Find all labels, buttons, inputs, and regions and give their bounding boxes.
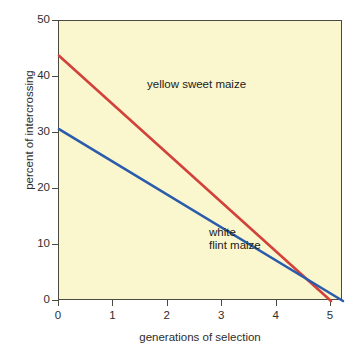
x-tick-label: 3: [206, 310, 236, 322]
y-axis-label: percent of intercrossing: [23, 40, 35, 220]
x-tick-label: 0: [43, 310, 73, 322]
y-tick-label: 0: [10, 294, 50, 306]
x-axis-label: generations of selection: [58, 331, 342, 343]
plot-lines-svg: [59, 21, 343, 301]
x-tick-label: 4: [261, 310, 291, 322]
series-line-white-flint-maize: [59, 129, 343, 301]
x-tick-label: 2: [152, 310, 182, 322]
annotation-yellow-sweet-maize: yellow sweet maize: [147, 78, 246, 91]
annotation-white-flint-maize-line2: flint maize: [209, 239, 261, 251]
annotation-white-flint-maize-line1: white: [209, 226, 236, 238]
chart-figure: 01020304050 012345 percent of intercross…: [0, 0, 364, 357]
x-tick-label: 5: [315, 310, 345, 322]
plot-area: yellow sweet maize whiteflint maize: [58, 20, 342, 300]
x-tick-label: 1: [97, 310, 127, 322]
y-tick-label: 10: [10, 238, 50, 250]
y-tick-label: 50: [10, 14, 50, 26]
series-line-yellow-sweet-maize: [59, 56, 331, 301]
annotation-white-flint-maize: whiteflint maize: [209, 226, 261, 253]
